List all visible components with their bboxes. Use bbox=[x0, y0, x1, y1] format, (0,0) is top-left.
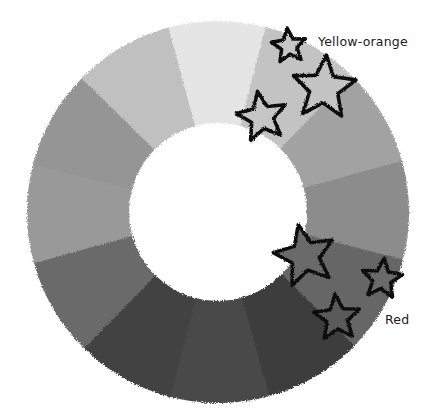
color-wheel-diagram: Yellow-orangeRed bbox=[0, 0, 446, 419]
label-yellow-orange: Yellow-orange bbox=[317, 34, 408, 49]
label-red: Red bbox=[385, 312, 409, 327]
